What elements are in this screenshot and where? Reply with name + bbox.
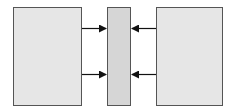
block-diagram: [0, 0, 234, 112]
left-block: [14, 8, 82, 106]
right-block: [157, 8, 223, 106]
center-block: [108, 8, 131, 106]
